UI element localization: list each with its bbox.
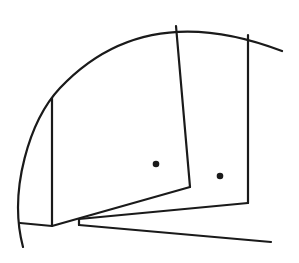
- panel-1-right-edge: [176, 26, 190, 187]
- panel-2-dot: [217, 173, 224, 180]
- bottom-long-line: [79, 225, 271, 242]
- diagram-canvas: [0, 0, 299, 263]
- circular-arc: [18, 31, 282, 247]
- panels-under-arc-diagram: [0, 0, 299, 263]
- panel-1-dot: [153, 161, 160, 168]
- panel-1-bottom-edge: [52, 187, 190, 226]
- bottom-left-base-line: [20, 223, 52, 226]
- line-group: [20, 26, 271, 242]
